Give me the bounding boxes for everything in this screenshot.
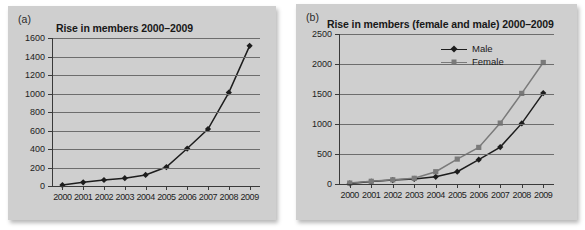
y-tick-label: 600: [30, 126, 45, 136]
y-tick-label: 0: [327, 179, 332, 189]
x-tick-label: 2009: [240, 192, 258, 202]
x-tick-label: 2000: [341, 190, 359, 200]
x-tick-mark: [371, 184, 372, 188]
x-tick-label: 2005: [448, 190, 466, 200]
x-tick-label: 2005: [157, 192, 175, 202]
series-line: [350, 63, 544, 184]
gridline: [52, 94, 260, 95]
x-tick-mark: [414, 184, 415, 188]
y-tick-label: 1500: [312, 89, 332, 99]
y-tick-label: 1000: [312, 119, 332, 129]
x-tick-mark: [543, 184, 544, 188]
y-tick-label: 1200: [25, 70, 45, 80]
y-axis-line: [52, 38, 53, 186]
y-tick-label: 500: [317, 149, 332, 159]
data-point-marker: [101, 177, 107, 183]
x-tick-mark: [350, 184, 351, 188]
x-tick-label: 2008: [513, 190, 531, 200]
x-tick-label: 2001: [74, 192, 92, 202]
x-tick-mark: [208, 186, 209, 190]
gridline: [339, 34, 554, 35]
x-tick-mark: [522, 184, 523, 188]
y-tick-label: 2000: [312, 59, 332, 69]
x-tick-mark: [229, 186, 230, 190]
chart-legend: MaleFemale: [441, 42, 504, 68]
x-tick-label: 2000: [53, 192, 71, 202]
data-point-marker: [476, 145, 481, 150]
chart-title-b: Rise in members (female and male) 2000–2…: [327, 18, 554, 30]
gridline: [339, 124, 554, 125]
y-tick-label: 1000: [25, 89, 45, 99]
data-point-marker: [454, 169, 460, 175]
x-tick-mark: [500, 184, 501, 188]
legend-marker-diamond-icon: [441, 44, 467, 54]
y-tick-label: 400: [30, 144, 45, 154]
gridline: [52, 38, 260, 39]
data-point-marker: [455, 157, 460, 162]
data-point-marker: [390, 177, 395, 182]
x-tick-label: 2007: [199, 192, 217, 202]
x-tick-mark: [62, 186, 63, 190]
x-tick-label: 2002: [95, 192, 113, 202]
y-tick-label: 200: [30, 163, 45, 173]
panel-label-b: (b): [306, 11, 319, 23]
x-tick-label: 2004: [427, 190, 445, 200]
y-tick-label: 2500: [312, 29, 332, 39]
x-tick-label: 2002: [384, 190, 402, 200]
x-tick-mark: [125, 186, 126, 190]
x-tick-label: 2006: [178, 192, 196, 202]
data-point-marker: [143, 172, 149, 178]
chart-panel-a: (a) Rise in members 2000–2009 0200400600…: [8, 6, 276, 220]
legend-marker-square-icon: [441, 57, 467, 67]
x-tick-mark: [250, 186, 251, 190]
y-tick-label: 1600: [25, 33, 45, 43]
legend-label: Male: [472, 43, 493, 54]
x-tick-mark: [479, 184, 480, 188]
x-tick-label: 2004: [136, 192, 154, 202]
gridline: [52, 57, 260, 58]
legend-item-female[interactable]: Female: [441, 55, 504, 68]
data-point-marker: [247, 43, 253, 49]
data-point-marker: [122, 175, 128, 181]
data-point-marker: [476, 157, 482, 163]
x-tick-mark: [393, 184, 394, 188]
gridline: [52, 131, 260, 132]
data-point-marker: [412, 176, 417, 181]
series-line: [62, 46, 249, 185]
x-tick-mark: [457, 184, 458, 188]
x-tick-label: 2003: [116, 192, 134, 202]
x-tick-mark: [83, 186, 84, 190]
panel-label-a: (a): [18, 13, 31, 25]
x-tick-mark: [146, 186, 147, 190]
x-tick-label: 2006: [470, 190, 488, 200]
chart-panel-b: (b) Rise in members (female and male) 20…: [296, 4, 577, 220]
y-axis-line: [339, 34, 340, 184]
y-tick-label: 1400: [25, 52, 45, 62]
x-tick-mark: [187, 186, 188, 190]
plot-area-a: 0200400600800100012001400160020002001200…: [52, 38, 260, 186]
x-tick-label: 2008: [220, 192, 238, 202]
gridline: [52, 168, 260, 169]
chart-title-a: Rise in members 2000–2009: [56, 22, 193, 34]
gridline: [339, 94, 554, 95]
x-tick-label: 2007: [491, 190, 509, 200]
x-tick-mark: [104, 186, 105, 190]
y-tick-label: 0: [40, 181, 45, 191]
legend-item-male[interactable]: Male: [441, 42, 504, 55]
x-tick-label: 2009: [534, 190, 552, 200]
x-tick-label: 2001: [362, 190, 380, 200]
y-tick-label: 800: [30, 107, 45, 117]
x-tick-mark: [436, 184, 437, 188]
legend-label: Female: [472, 56, 504, 67]
x-tick-label: 2003: [405, 190, 423, 200]
series-line: [350, 93, 544, 183]
gridline: [52, 149, 260, 150]
data-point-marker: [80, 179, 86, 185]
gridline: [339, 154, 554, 155]
data-point-marker: [433, 169, 438, 174]
data-point-marker: [433, 174, 439, 180]
gridline: [52, 75, 260, 76]
x-tick-mark: [166, 186, 167, 190]
gridline: [52, 112, 260, 113]
